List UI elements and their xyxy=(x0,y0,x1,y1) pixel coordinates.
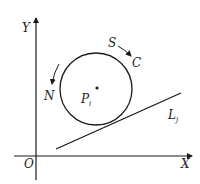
left-arrow xyxy=(52,64,59,84)
x-axis-label: X xyxy=(180,157,190,171)
center-label: Pi xyxy=(80,92,91,108)
y-axis-label: Y xyxy=(22,21,31,35)
label-n: N xyxy=(43,89,55,103)
line-label: Lj xyxy=(167,108,179,124)
center-point xyxy=(95,86,98,89)
label-c: C xyxy=(132,56,141,70)
origin-label: O xyxy=(24,157,34,171)
coordinate-diagram: Y X O Pi S C N Lj xyxy=(0,0,200,184)
line-lj xyxy=(56,93,181,149)
top-arrow xyxy=(118,46,131,56)
label-s: S xyxy=(108,36,116,50)
